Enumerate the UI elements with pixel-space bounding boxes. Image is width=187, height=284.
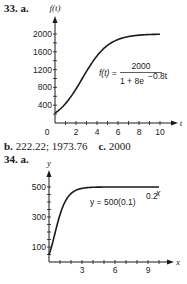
answer-b-label: b. <box>4 140 13 152</box>
x-axis-arrow-icon <box>167 260 174 265</box>
x-tick-label: 4 <box>95 127 100 137</box>
answer-b-value: 222.22; 1973.76 <box>16 140 88 152</box>
x-tick-label: 2 <box>74 127 79 137</box>
equation-numerator: 2000 <box>132 61 151 71</box>
answer-c-value: 2000 <box>109 140 131 152</box>
x-tick-label-2: 9 <box>146 265 151 275</box>
x-axis-arrow-icon <box>171 121 178 126</box>
y-axis-arrow-icon <box>47 170 52 177</box>
equation-exponent: −0.8t <box>148 71 168 81</box>
y-axis-arrow-icon <box>53 16 58 23</box>
x-tick-label: 8 <box>137 127 142 137</box>
x-tick-label-2: 3 <box>80 265 85 275</box>
x-axis-label-2: x <box>175 257 180 267</box>
x-tick-label: 0 <box>45 127 50 137</box>
y-tick-label: 400 <box>38 100 52 110</box>
y-tick-label-2: 500 <box>32 182 46 192</box>
x-axis-label: t <box>180 118 183 128</box>
y-tick-label: 2000 <box>33 29 52 39</box>
y-tick-label-2: 100 <box>32 242 46 252</box>
x-tick-label: 10 <box>155 127 165 137</box>
answer-c-label: c. <box>98 140 106 152</box>
equation-lhs: f(t) = <box>99 68 117 78</box>
problem-33-answers: b. 222.22; 1973.76 c. 2000 <box>4 140 131 152</box>
equation-2-exponent2: x <box>155 188 161 198</box>
y-axis-label-2: y <box>46 158 51 168</box>
x-tick-label: 6 <box>116 127 121 137</box>
y-tick-label-2: 300 <box>32 212 46 222</box>
equation-denominator: 1 + 8e <box>120 76 144 86</box>
problem-34-label: 34. a. <box>4 153 29 165</box>
x-tick-label-2: 6 <box>113 265 118 275</box>
y-tick-label: 1600 <box>33 47 52 57</box>
y-tick-label: 800 <box>38 82 52 92</box>
equation-2-lhs: y = 500(0.1) <box>90 197 136 207</box>
y-tick-label: 1200 <box>33 65 52 75</box>
y-axis-label: f(t) <box>50 3 61 13</box>
